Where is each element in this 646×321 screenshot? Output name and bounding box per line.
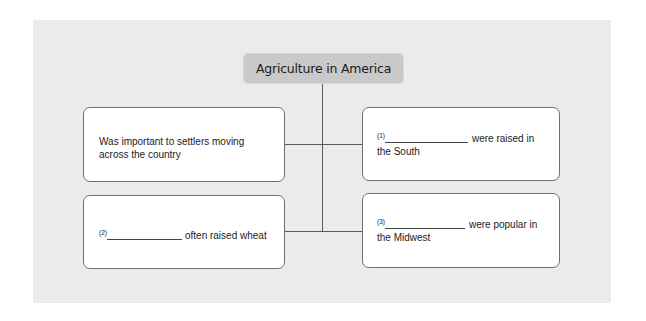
node-text-line2: across the country <box>99 148 284 161</box>
fill-in-blank-3[interactable] <box>385 218 465 229</box>
connector-top-horizontal <box>285 144 362 145</box>
blank-number: (2) <box>99 229 107 236</box>
connector-vertical <box>322 84 323 231</box>
diagram-title: Agriculture in America <box>243 53 404 84</box>
node-text-after-blank: often raised wheat <box>185 230 267 241</box>
node-text-after-blank: were popular in <box>469 219 537 230</box>
node-text-line2: the South <box>377 145 559 158</box>
blank-number: (3) <box>377 218 385 225</box>
node-top-left: Was important to settlers moving across … <box>83 107 285 182</box>
node-bottom-right: (3)were popular in the Midwest <box>362 193 560 268</box>
node-top-right: (1)were raised in the South <box>362 107 560 181</box>
fill-in-blank-2[interactable] <box>107 229 182 240</box>
node-bottom-left: (2)often raised wheat <box>83 195 285 269</box>
fill-in-blank-1[interactable] <box>385 132 468 143</box>
diagram-title-text: Agriculture in America <box>256 61 391 76</box>
connector-bottom-horizontal <box>285 231 362 232</box>
node-text-line1: Was important to settlers moving <box>99 135 284 148</box>
node-text-after-blank: were raised in <box>472 133 534 144</box>
blank-number: (1) <box>377 132 385 139</box>
node-text-line2: the Midwest <box>377 231 559 244</box>
